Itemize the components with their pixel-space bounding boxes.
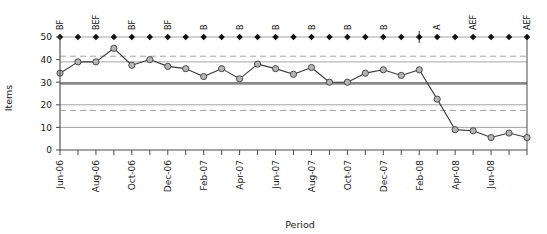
chart-canvas: BFBEFBFBFBBBBBBAAEFAEF 01020304050 Jun-0…	[0, 0, 547, 234]
data-point-marker	[129, 62, 135, 68]
y-axis-tick-label: 50	[41, 32, 53, 42]
annotation-label: B	[380, 25, 389, 31]
x-axis-tick-label: Jun-08	[486, 160, 496, 190]
x-axis-tick-label: Apr-07	[235, 160, 245, 190]
data-point-marker	[237, 76, 243, 82]
annotation-label: BF	[128, 20, 137, 30]
x-axis-tick-label: Apr-08	[451, 160, 461, 190]
data-point-marker	[362, 70, 368, 76]
annotation-label: B	[344, 25, 353, 31]
data-point-marker	[452, 127, 458, 133]
data-point-marker	[201, 73, 207, 79]
x-axis-tick-label: Dec-07	[379, 160, 389, 192]
x-axis-tick-label: Jun-07	[271, 160, 281, 190]
x-axis-tick-label: Jun-06	[55, 160, 65, 190]
y-axis-tick-label: 30	[41, 78, 53, 88]
x-axis-tick-label: Feb-08	[415, 160, 425, 191]
y-axis-title: Items	[3, 85, 14, 112]
data-point-marker	[147, 57, 153, 63]
y-axis-tick-label: 20	[41, 100, 53, 110]
data-point-marker	[75, 59, 81, 65]
y-axis-tick-label: 10	[41, 123, 53, 133]
data-point-marker	[308, 64, 314, 70]
x-axis-tick-label: Oct-06	[127, 160, 137, 191]
data-point-marker	[488, 134, 494, 140]
data-point-marker	[183, 66, 189, 72]
data-point-marker	[93, 59, 99, 65]
annotation-label: A	[433, 24, 442, 30]
data-point-marker	[219, 66, 225, 72]
x-axis-tick-label: Feb-07	[199, 160, 209, 191]
x-axis-tick-label: Oct-07	[343, 160, 353, 190]
annotation-label: B	[308, 25, 317, 31]
x-axis-title: Period	[285, 219, 315, 230]
annotation-label: B	[236, 25, 245, 31]
data-point-marker	[272, 66, 278, 72]
data-point-marker	[111, 45, 117, 51]
data-point-marker	[506, 130, 512, 136]
data-point-marker	[254, 61, 260, 67]
annotation-label: AEF	[469, 14, 478, 30]
data-point-marker	[290, 71, 296, 77]
data-point-marker	[470, 128, 476, 134]
data-point-marker	[326, 79, 332, 85]
data-point-marker	[398, 72, 404, 78]
annotation-label: B	[272, 25, 281, 31]
data-point-marker	[380, 67, 386, 73]
annotation-label: BF	[56, 20, 65, 30]
chart-background	[0, 0, 547, 234]
y-axis-tick-label: 40	[41, 55, 53, 65]
data-point-marker	[434, 96, 440, 102]
annotation-label: AEF	[523, 14, 532, 30]
annotation-label: BEF	[92, 14, 101, 30]
x-axis-tick-label: Dec-06	[163, 160, 173, 192]
y-axis-tick-label: 0	[46, 145, 52, 155]
annotation-label: B	[200, 25, 209, 31]
control-chart: BFBEFBFBFBBBBBBAAEFAEF 01020304050 Jun-0…	[0, 0, 547, 234]
data-point-marker	[344, 79, 350, 85]
data-point-marker	[416, 67, 422, 73]
data-point-marker	[165, 63, 171, 69]
x-axis-tick-label: Aug-06	[91, 160, 101, 193]
x-axis-tick-label: Aug-07	[307, 160, 317, 192]
annotation-label: BF	[164, 20, 173, 30]
data-point-marker	[524, 134, 530, 140]
